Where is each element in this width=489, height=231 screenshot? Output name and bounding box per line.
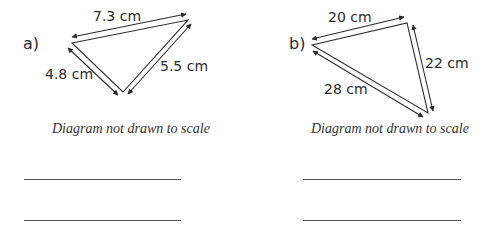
side-b-right: 22 cm <box>425 55 469 71</box>
side-b-left: 28 cm <box>324 81 368 97</box>
problem-a-label: a) <box>23 34 39 53</box>
answer-line-b1[interactable] <box>303 179 461 180</box>
triangle-b <box>312 17 433 117</box>
side-a-left: 4.8 cm <box>45 66 93 82</box>
answer-line-a2[interactable] <box>24 220 181 221</box>
problem-b-label: b) <box>289 34 305 53</box>
side-a-right: 5.5 cm <box>160 58 208 74</box>
triangle-diagrams <box>0 0 489 231</box>
triangle-a <box>68 14 191 95</box>
side-a-top: 7.3 cm <box>93 8 141 24</box>
side-b-top: 20 cm <box>328 9 372 25</box>
note-a: Diagram not drawn to scale <box>52 121 210 137</box>
answer-line-b2[interactable] <box>303 220 461 221</box>
note-b: Diagram not drawn to scale <box>311 121 469 137</box>
answer-line-a1[interactable] <box>24 179 181 180</box>
